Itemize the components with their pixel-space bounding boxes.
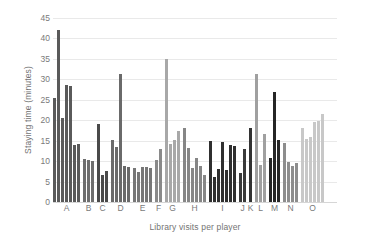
bar (203, 175, 206, 202)
y-tick-label: 45 (41, 14, 50, 23)
bar (77, 144, 80, 202)
y-tick-label: 10 (41, 157, 50, 166)
bar (141, 167, 144, 202)
y-tick-label: 20 (41, 116, 50, 125)
x-tick-label: G (169, 203, 176, 214)
bar (187, 148, 190, 202)
bar (61, 118, 64, 202)
bar-series (53, 18, 337, 202)
bar (137, 172, 140, 202)
x-tick-label: L (258, 203, 263, 214)
bar (195, 158, 198, 202)
bar (65, 85, 68, 202)
bar (53, 98, 56, 202)
bar (173, 140, 176, 202)
bar (57, 30, 60, 202)
bar (249, 128, 252, 202)
bar (149, 168, 152, 202)
y-tick-label: 25 (41, 95, 50, 104)
bar (105, 171, 108, 202)
x-tick-label: O (309, 203, 316, 214)
bar (133, 168, 136, 202)
bar (283, 143, 286, 202)
y-tick-label: 0 (45, 198, 50, 207)
bar (123, 166, 126, 202)
x-axis-tick-labels: ABCDEFGHIJKLMNO (53, 203, 337, 217)
bar (209, 141, 212, 202)
bar (269, 158, 272, 202)
bar (199, 166, 202, 202)
bar (155, 160, 158, 202)
bar (243, 149, 246, 202)
bar (191, 168, 194, 202)
bar (97, 124, 100, 202)
x-tick-label: C (99, 203, 105, 214)
bar (287, 162, 290, 202)
bar (273, 92, 276, 202)
y-tick-label: 15 (41, 136, 50, 145)
bar (69, 86, 72, 202)
x-tick-label: I (221, 203, 223, 214)
x-tick-label: H (191, 203, 197, 214)
y-tick-label: 40 (41, 34, 50, 43)
x-axis-title: Library visits per player (53, 222, 337, 232)
bar (91, 161, 94, 202)
bar (217, 169, 220, 202)
x-tick-label: N (287, 203, 293, 214)
bar (291, 166, 294, 202)
plot-area (53, 18, 337, 202)
x-tick-label: M (271, 203, 278, 214)
y-axis-tick-labels: 051015202530354045 (28, 0, 50, 252)
bar (309, 137, 312, 202)
x-tick-label: A (64, 203, 70, 214)
bar (169, 144, 172, 202)
bar (127, 167, 130, 202)
bar (145, 167, 148, 202)
bar (115, 147, 118, 202)
y-tick-label: 30 (41, 75, 50, 84)
bar (259, 165, 262, 202)
bar (111, 140, 114, 202)
x-tick-label: D (117, 203, 123, 214)
bar (119, 74, 122, 202)
bar (233, 146, 236, 202)
x-tick-label: E (140, 203, 146, 214)
bar (73, 145, 76, 202)
bar (295, 163, 298, 202)
bar (277, 140, 280, 202)
x-tick-label: J (240, 203, 244, 214)
y-tick-label: 5 (45, 177, 50, 186)
bar (239, 173, 242, 202)
bar (165, 59, 168, 202)
bar (101, 175, 104, 202)
x-tick-label: F (156, 203, 161, 214)
bar (317, 121, 320, 202)
x-tick-label: B (86, 203, 92, 214)
bar (159, 149, 162, 202)
bar (83, 159, 86, 202)
bar (229, 145, 232, 202)
bar (213, 177, 216, 202)
bar (177, 131, 180, 202)
bar-chart: Staying time (minutes) 05101520253035404… (0, 0, 367, 252)
bar (321, 114, 324, 202)
bar (221, 142, 224, 202)
x-tick-label: K (248, 203, 254, 214)
y-tick-label: 35 (41, 54, 50, 63)
bar (313, 122, 316, 202)
bar (87, 160, 90, 202)
bar (255, 74, 258, 202)
bar (183, 128, 186, 202)
bar (225, 170, 228, 202)
bar (301, 128, 304, 202)
bar (263, 134, 266, 202)
bar (305, 139, 308, 202)
